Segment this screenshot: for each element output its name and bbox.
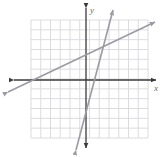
axes [14, 8, 156, 148]
shallow-line [8, 22, 155, 92]
grid [31, 20, 148, 138]
x-axis-label: x [153, 83, 158, 93]
graph-figure: x y [0, 0, 164, 157]
y-axis-label: y [89, 5, 94, 15]
coordinate-plane-svg: x y [0, 0, 164, 157]
